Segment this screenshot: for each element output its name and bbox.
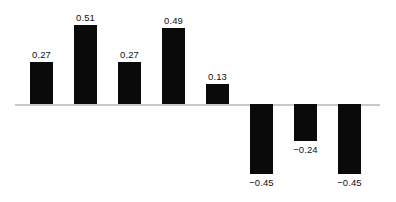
- bar-value-label: −0.24: [279, 144, 332, 155]
- bar: [74, 25, 97, 104]
- bar-value-label: −0.45: [323, 177, 376, 188]
- bar-chart: 0.270.510.270.490.13−0.45−0.24−0.45: [0, 0, 396, 202]
- zero-baseline: [15, 104, 380, 106]
- bar-value-label: 0.51: [59, 12, 112, 23]
- bar: [118, 62, 141, 104]
- bar-value-label: −0.45: [235, 177, 288, 188]
- plot-area: 0.270.510.270.490.13−0.45−0.24−0.45: [0, 0, 396, 202]
- bar: [250, 104, 273, 174]
- bar-value-label: 0.27: [103, 49, 156, 60]
- bar-value-label: 0.27: [15, 49, 68, 60]
- bar: [162, 28, 185, 104]
- bar: [338, 104, 361, 174]
- bar: [206, 84, 229, 104]
- bar: [30, 62, 53, 104]
- bar: [294, 104, 317, 141]
- bar-value-label: 0.49: [147, 15, 200, 26]
- bar-value-label: 0.13: [191, 71, 244, 82]
